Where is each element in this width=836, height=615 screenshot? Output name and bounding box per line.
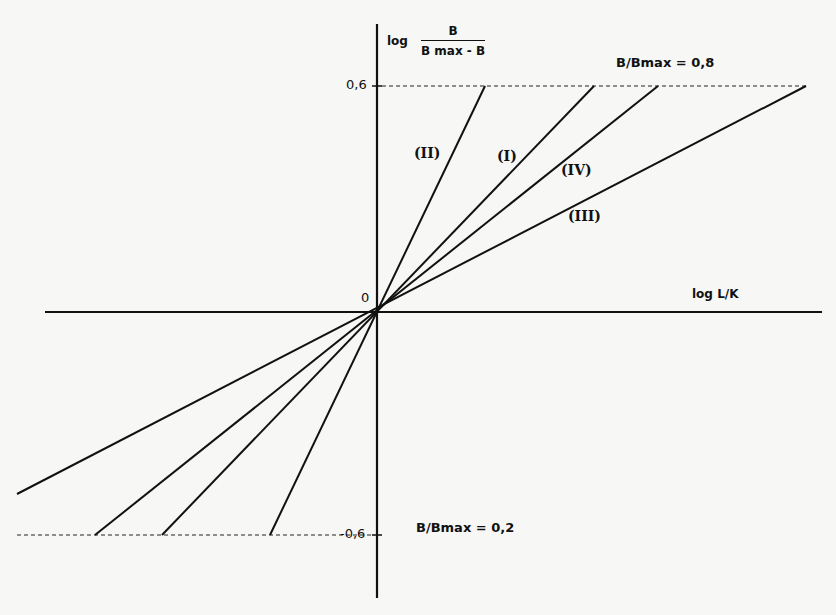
tick-label-bottom: -0,6	[340, 526, 365, 541]
y-axis-label-denominator: B max - B	[421, 41, 485, 58]
tick-label-top: 0,6	[346, 77, 367, 92]
origin-label: 0	[361, 290, 369, 305]
y-axis-label-prefix: log	[387, 34, 408, 48]
ref-label-bottom: B/Bmax = 0,2	[416, 520, 514, 535]
line-label-I: (I)	[497, 148, 517, 164]
x-axis-label: log L/K	[692, 287, 738, 301]
line-label-IV: (IV)	[561, 162, 592, 178]
ref-label-top: B/Bmax = 0,8	[616, 55, 714, 70]
line-label-II: (II)	[414, 145, 440, 161]
line-III	[17, 86, 806, 494]
line-label-III: (III)	[568, 208, 601, 224]
y-axis-label-fraction: B B max - B	[421, 24, 485, 58]
y-axis-label-numerator: B	[421, 24, 485, 41]
